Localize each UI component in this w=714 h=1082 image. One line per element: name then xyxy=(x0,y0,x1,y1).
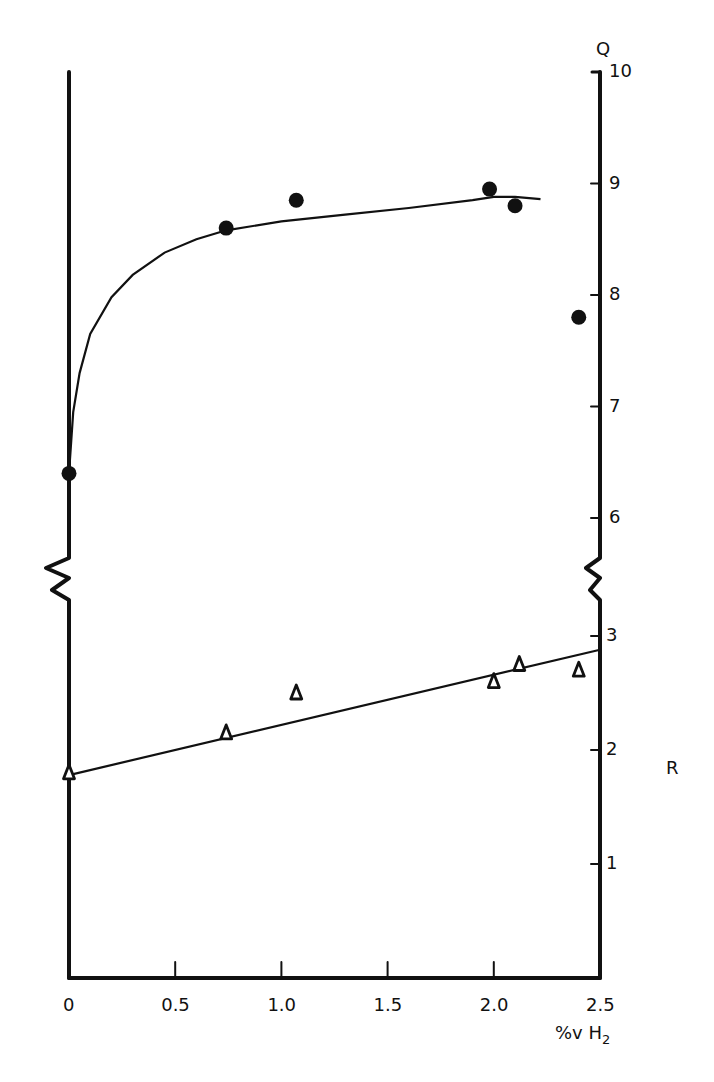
data-points xyxy=(62,182,587,779)
x-axis-title-subscript: 2 xyxy=(602,1032,610,1047)
x-tick-label: 2.5 xyxy=(586,996,615,1014)
data-point-r xyxy=(64,765,75,779)
data-point-q xyxy=(482,182,497,197)
data-point-q xyxy=(508,198,523,213)
data-point-r xyxy=(573,662,584,676)
r-tick-label: 3 xyxy=(606,626,617,644)
q-tick-label: 8 xyxy=(609,285,620,303)
data-point-q xyxy=(571,310,586,325)
chart-canvas xyxy=(0,0,714,1082)
q-tick-label: 9 xyxy=(609,174,620,192)
q-tick-label: 10 xyxy=(609,62,632,80)
x-tick-label: 1.0 xyxy=(267,996,296,1014)
x-axis-ticks xyxy=(175,962,494,978)
data-point-r xyxy=(221,725,232,739)
r-tick-label: 1 xyxy=(606,854,617,872)
data-point-q xyxy=(219,221,234,236)
data-point-r xyxy=(514,657,525,671)
fit-curve-q xyxy=(69,197,541,474)
x-axis-title: %v H2 xyxy=(555,1024,610,1046)
q-tick-label: 6 xyxy=(609,508,620,526)
x-tick-label: 0.5 xyxy=(161,996,190,1014)
fit-curves xyxy=(69,197,600,775)
x-tick-label: 1.5 xyxy=(374,996,403,1014)
right-axis-line xyxy=(586,72,600,978)
data-point-r xyxy=(291,685,302,699)
q-tick-label: 7 xyxy=(609,397,620,415)
data-point-q xyxy=(289,193,304,208)
left-axis-line xyxy=(46,72,69,978)
data-point-q xyxy=(62,466,77,481)
x-tick-label: 0 xyxy=(63,996,74,1014)
r-axis-title: R xyxy=(666,759,679,777)
q-axis-title: Q xyxy=(596,40,610,58)
r-tick-label: 2 xyxy=(606,740,617,758)
x-tick-label: 2.0 xyxy=(480,996,509,1014)
